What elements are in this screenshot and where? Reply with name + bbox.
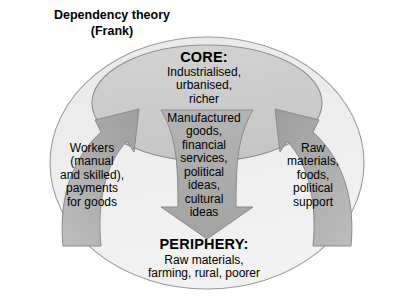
diagram-text-layer: Dependency theory (Frank) CORE: Industri… [0, 0, 395, 307]
dependency-theory-diagram: Dependency theory (Frank) CORE: Industri… [0, 0, 395, 307]
periphery-to-core-left-flow-label: Workers (manual and skilled), payments f… [40, 142, 144, 209]
diagram-title: Dependency theory (Frank) [22, 8, 202, 39]
periphery-heading: PERIPHERY: [130, 236, 278, 252]
core-to-periphery-flow-label: Manufactured goods, financial services, … [150, 112, 258, 220]
periphery-description: Raw materials, farming, rural, poorer [110, 254, 298, 281]
core-heading: CORE: [145, 49, 263, 65]
periphery-to-core-right-flow-label: Raw materials, foods, political support [262, 142, 364, 209]
core-description: Industrialised, urbanised, richer [138, 66, 270, 106]
